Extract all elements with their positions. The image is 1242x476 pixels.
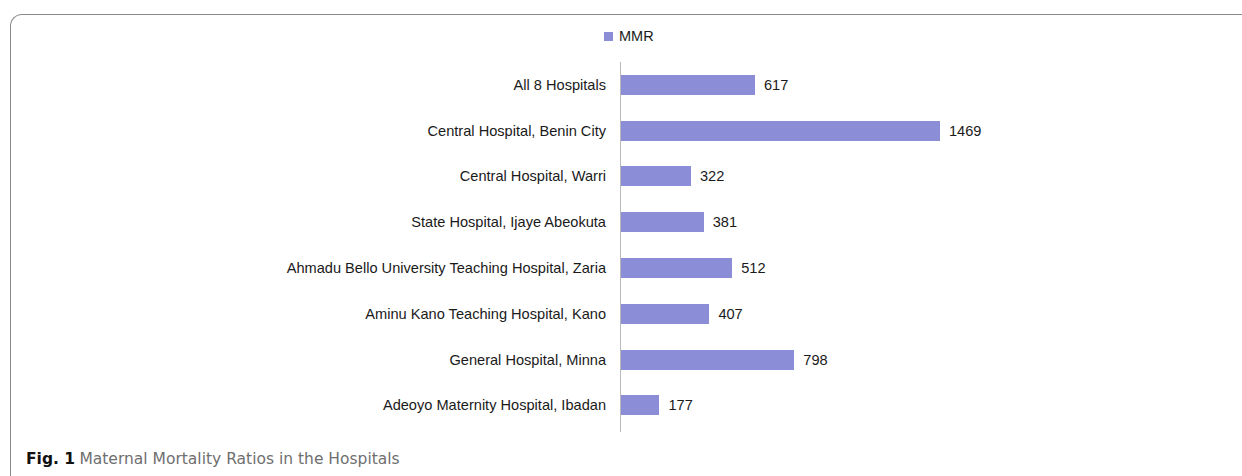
bar-row: Central Hospital, Benin City1469 bbox=[0, 108, 1242, 154]
category-label: Adeoyo Maternity Hospital, Ibadan bbox=[383, 397, 606, 413]
bar-value-label: 322 bbox=[700, 168, 724, 184]
bar-row: State Hospital, Ijaye Abeokuta381 bbox=[0, 199, 1242, 245]
category-label: Ahmadu Bello University Teaching Hospita… bbox=[287, 260, 606, 276]
bar-value-label: 177 bbox=[668, 397, 692, 413]
legend-swatch-mmr bbox=[604, 32, 613, 41]
bar-row: All 8 Hospitals617 bbox=[0, 62, 1242, 108]
bar-mmr[interactable] bbox=[621, 350, 794, 370]
plot-region: All 8 Hospitals617Central Hospital, Beni… bbox=[0, 62, 1242, 432]
bar-value-label: 1469 bbox=[949, 123, 981, 139]
bar-mmr[interactable] bbox=[621, 258, 732, 278]
bar-mmr[interactable] bbox=[621, 395, 659, 415]
bar-mmr[interactable] bbox=[621, 166, 691, 186]
category-label: All 8 Hospitals bbox=[514, 77, 606, 93]
bar-mmr[interactable] bbox=[621, 212, 704, 232]
category-label: Central Hospital, Benin City bbox=[428, 123, 606, 139]
bar-row: Ahmadu Bello University Teaching Hospita… bbox=[0, 245, 1242, 291]
bar-value-label: 512 bbox=[741, 260, 765, 276]
category-label: Central Hospital, Warri bbox=[460, 168, 606, 184]
bar-value-label: 798 bbox=[803, 352, 827, 368]
bar-row: Adeoyo Maternity Hospital, Ibadan177 bbox=[0, 383, 1242, 429]
figure-caption: Fig. 1 Maternal Mortality Ratios in the … bbox=[26, 450, 400, 469]
category-label: General Hospital, Minna bbox=[449, 352, 606, 368]
chart-legend: MMR bbox=[604, 27, 654, 45]
bar-mmr[interactable] bbox=[621, 304, 709, 324]
bar-value-label: 381 bbox=[713, 214, 737, 230]
category-label: State Hospital, Ijaye Abeokuta bbox=[411, 214, 606, 230]
bar-mmr[interactable] bbox=[621, 121, 940, 141]
category-label: Aminu Kano Teaching Hospital, Kano bbox=[365, 306, 606, 322]
bar-value-label: 617 bbox=[764, 77, 788, 93]
legend-label-mmr: MMR bbox=[619, 29, 654, 44]
bar-row: Aminu Kano Teaching Hospital, Kano407 bbox=[0, 291, 1242, 337]
bar-chart: MMR All 8 Hospitals617Central Hospital, … bbox=[0, 0, 1242, 432]
caption-description: Maternal Mortality Ratios in the Hospita… bbox=[79, 450, 399, 468]
bar-mmr[interactable] bbox=[621, 75, 755, 95]
bar-row: General Hospital, Minna798 bbox=[0, 337, 1242, 383]
bar-value-label: 407 bbox=[718, 306, 742, 322]
bar-row: Central Hospital, Warri322 bbox=[0, 154, 1242, 200]
caption-label: Fig. 1 bbox=[26, 450, 75, 468]
